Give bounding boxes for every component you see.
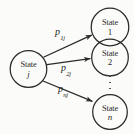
node-circle-state-2	[92, 39, 129, 76]
node-circle-source-state-j	[10, 51, 47, 88]
ellipsis-dot	[109, 88, 110, 89]
node-circle-state-1	[91, 8, 129, 46]
ellipsis-dot	[109, 76, 110, 77]
edge-label-pnj: pnj	[58, 84, 68, 94]
edge-label-subscript: nj	[63, 91, 68, 98]
edge-label-subscript: 1j	[60, 34, 65, 41]
edge-label-subscript: 2j	[66, 70, 71, 77]
edge-arrow-state-1	[44, 35, 92, 57]
vertical-ellipsis-icon	[109, 76, 110, 89]
node-circle-state-n	[93, 95, 128, 130]
edge-label-p1j: p1j	[55, 27, 65, 37]
ellipsis-dot	[109, 82, 110, 83]
state-transition-diagram: State j State 1 State 2 State n p1j p2j …	[0, 0, 134, 134]
edge-label-p2j: p2j	[61, 63, 71, 73]
